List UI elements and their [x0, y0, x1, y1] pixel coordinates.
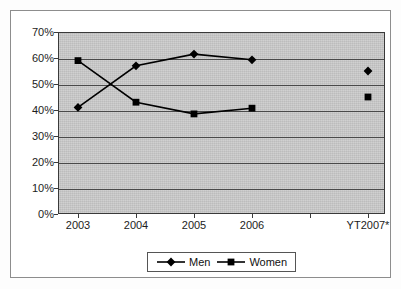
x-tick-mark — [252, 214, 253, 218]
legend-entry-women[interactable]: Women — [216, 256, 287, 268]
y-tick-mark — [54, 214, 58, 215]
data-point-diamond — [248, 55, 257, 64]
data-point-square — [249, 105, 256, 112]
y-tick-label: 50% — [32, 79, 54, 90]
y-tick-label: 10% — [32, 183, 54, 194]
x-tick-label: YT2007* — [347, 219, 390, 231]
data-point-square — [75, 57, 82, 64]
y-tick-label: 40% — [32, 105, 54, 116]
chart-legend: MenWomen — [147, 252, 296, 272]
legend-label: Men — [189, 257, 210, 268]
x-tick-mark — [368, 214, 369, 218]
series-line — [78, 54, 252, 107]
data-point-square — [228, 259, 235, 266]
series-men — [74, 50, 373, 112]
data-point-diamond — [167, 258, 176, 267]
x-tick-label: 2003 — [66, 219, 90, 231]
x-tick-label: 2006 — [240, 219, 264, 231]
x-tick-mark — [310, 214, 311, 218]
data-point-diamond — [190, 50, 199, 59]
x-tick-mark — [194, 214, 195, 218]
series-line — [78, 61, 252, 114]
y-tick-label: 60% — [32, 53, 54, 64]
legend-entry-men[interactable]: Men — [156, 256, 210, 268]
legend-label: Women — [249, 257, 287, 268]
x-tick-label: 2005 — [182, 219, 206, 231]
x-tick-mark — [78, 214, 79, 218]
series-layer — [58, 32, 385, 214]
y-tick-label: 70% — [32, 27, 54, 38]
data-point-square — [365, 94, 372, 101]
chart-container: 70%60%50%40%30%20%10%0% 2003200420052006… — [0, 0, 401, 289]
x-tick-mark — [136, 214, 137, 218]
series-women — [75, 57, 372, 117]
y-axis: 70%60%50%40%30%20%10%0% — [18, 0, 54, 289]
data-point-square — [191, 111, 198, 118]
data-point-diamond — [364, 67, 373, 76]
y-tick-label: 20% — [32, 157, 54, 168]
y-tick-label: 30% — [32, 131, 54, 142]
x-tick-label: 2004 — [124, 219, 148, 231]
data-point-square — [133, 99, 140, 106]
legend-marker-diamond-icon — [156, 256, 186, 268]
legend-marker-square-icon — [216, 256, 246, 268]
y-tick-label: 0% — [38, 209, 54, 220]
